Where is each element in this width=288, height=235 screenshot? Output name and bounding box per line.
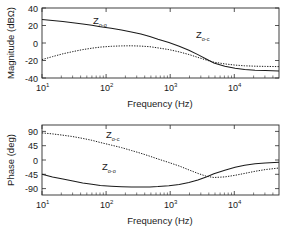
magnitude-xtick-2: 102	[100, 82, 114, 93]
phase-ytick-neg90: -90	[25, 184, 38, 194]
magnitude-panel: 40 20 0 -20 -40 101 102 103 104 Magnitud…	[0, 0, 288, 118]
phase-curve-z-oc	[42, 133, 279, 178]
magnitude-y-ticklabels: 40 20 0 -20 -40	[25, 4, 38, 84]
magnitude-xtick-3: 103	[164, 82, 178, 93]
magnitude-x-axis-title: Frequency (Hz)	[127, 98, 192, 109]
phase-xtick-2: 102	[100, 199, 114, 210]
phase-axes-frame	[42, 125, 279, 195]
phase-label-z-oc: Zo-c	[106, 129, 120, 142]
magnitude-x-ticks	[42, 8, 273, 78]
magnitude-y-ticks	[42, 8, 279, 78]
phase-ytick-neg45: -45	[25, 170, 38, 180]
phase-xtick-1: 101	[36, 199, 50, 210]
magnitude-x-ticklabels: 101 102 103 104	[36, 82, 242, 93]
magnitude-label-z-oc: Zo-c	[196, 29, 210, 42]
magnitude-xtick-1: 101	[36, 82, 50, 93]
phase-curve-z-oo	[42, 162, 279, 187]
magnitude-ytick-0: 0	[33, 39, 38, 49]
phase-x-ticklabels: 101 102 103 104	[36, 199, 242, 210]
magnitude-curve-z-oo	[42, 20, 279, 71]
magnitude-ytick-20: 20	[28, 21, 38, 31]
magnitude-svg: 40 20 0 -20 -40 101 102 103 104 Magnitud…	[0, 0, 288, 118]
phase-panel: 90 45 0 -45 -90 101 102 103 104 Phase (d…	[0, 117, 288, 235]
magnitude-ytick-neg20: -20	[25, 56, 38, 66]
magnitude-y-axis-title: Magnitude (dBΩ)	[5, 7, 16, 79]
phase-xtick-3: 103	[164, 199, 178, 210]
phase-xtick-4: 104	[228, 199, 242, 210]
phase-ytick-90: 90	[28, 127, 38, 137]
magnitude-axes-frame	[42, 8, 279, 78]
phase-y-ticklabels: 90 45 0 -45 -90	[25, 127, 38, 194]
magnitude-xtick-4: 104	[228, 82, 242, 93]
phase-x-ticks	[42, 125, 273, 195]
phase-svg: 90 45 0 -45 -90 101 102 103 104 Phase (d…	[0, 117, 288, 235]
phase-ytick-45: 45	[28, 141, 38, 151]
magnitude-ytick-neg40: -40	[25, 74, 38, 84]
magnitude-curve-z-oc	[42, 46, 279, 67]
phase-y-axis-title: Phase (deg)	[5, 134, 16, 186]
phase-x-axis-title: Frequency (Hz)	[127, 215, 192, 226]
phase-ytick-0: 0	[33, 156, 38, 166]
phase-label-z-oo: Zo-o	[102, 161, 116, 174]
magnitude-ytick-40: 40	[28, 4, 38, 14]
bode-plot-figure: 40 20 0 -20 -40 101 102 103 104 Magnitud…	[0, 0, 288, 235]
phase-y-ticks	[42, 131, 279, 188]
